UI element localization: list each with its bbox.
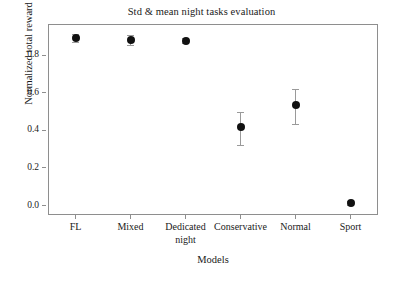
x-tick-mark [240,215,241,219]
error-bar-cap-lower [237,145,244,146]
chart-title: Std & mean night tasks evaluation [0,6,403,17]
data-point-marker [127,36,135,44]
data-point-marker [347,199,355,207]
y-tick-mark [42,55,46,56]
data-point-marker [182,37,190,45]
x-tick-mark [185,215,186,219]
y-tick-mark [42,205,46,206]
y-tick-label: 0.8 [6,48,39,61]
y-tick-mark [42,167,46,168]
x-tick-mark [295,215,296,219]
chart-figure: Std & mean night tasks evaluation Normal… [0,0,403,283]
y-tick-label: 0.2 [6,161,39,174]
data-point-marker [237,123,245,131]
error-bar-cap-lower [292,124,299,125]
error-bar-cap-upper [237,112,244,113]
error-bar-cap-lower [127,45,134,46]
data-point-marker [72,34,80,42]
x-axis-label: Models [48,254,378,265]
error-bar-cap-lower [72,42,79,43]
y-tick-label: 0.4 [6,123,39,136]
y-tick-label: 0.0 [6,199,39,212]
x-tick-label: Sport [301,220,401,233]
y-tick-label: 0.6 [6,86,39,99]
data-point-marker [292,101,300,109]
x-tick-mark [130,215,131,219]
y-tick-mark [42,130,46,131]
error-bar-cap-upper [292,89,299,90]
y-tick-mark [42,92,46,93]
x-tick-mark [75,215,76,219]
plot-area [48,24,378,215]
x-tick-mark [350,215,351,219]
y-axis-label: Normalized total reward [23,0,34,139]
